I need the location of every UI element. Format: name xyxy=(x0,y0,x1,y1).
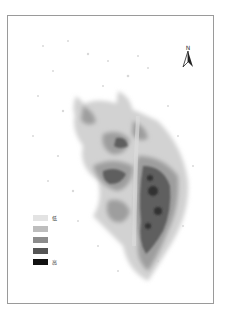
legend-label: 低 xyxy=(52,215,57,221)
legend-swatch xyxy=(33,237,48,243)
north-arrow: N xyxy=(180,44,196,80)
legend-item-5: 高 xyxy=(33,257,57,267)
legend-item-2 xyxy=(33,224,57,234)
legend-item-3 xyxy=(33,235,57,245)
legend-swatch xyxy=(33,259,48,265)
map-frame: N 低 高 xyxy=(7,15,214,304)
legend: 低 高 xyxy=(33,213,57,268)
legend-label: 高 xyxy=(52,259,57,265)
north-arrow-icon xyxy=(182,51,194,67)
north-label: N xyxy=(180,44,196,51)
legend-item-1: 低 xyxy=(33,213,57,223)
legend-item-4 xyxy=(33,246,57,256)
legend-swatch xyxy=(33,248,48,254)
legend-swatch xyxy=(33,226,48,232)
legend-swatch xyxy=(33,215,48,221)
